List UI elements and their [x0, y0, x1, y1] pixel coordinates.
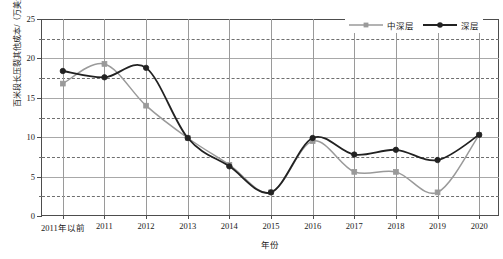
x-tick-label: 2016 — [304, 221, 321, 231]
x-tick-label: 2011年以前 — [41, 221, 85, 233]
data-point-marker-circle — [435, 157, 440, 162]
legend-circle-marker-icon — [423, 20, 457, 30]
data-point-marker-circle — [227, 164, 232, 169]
series-medium-deep — [60, 62, 481, 195]
data-point-marker-square — [102, 62, 107, 67]
series-line — [63, 65, 479, 193]
x-axis-title: 年份 — [41, 238, 499, 250]
x-tick-label: 2011 — [96, 221, 113, 231]
data-point-marker-square — [60, 81, 65, 86]
y-axis-title-wrapper: 百米段长压裂其他成本/（万美元/100m） — [0, 0, 16, 200]
x-tick-label: 2020 — [471, 221, 488, 231]
y-tick-label: 15 — [27, 93, 36, 103]
y-axis-title: 百米段长压裂其他成本/（万美元/100m） — [11, 0, 22, 136]
y-tick-label: 20 — [27, 53, 36, 63]
y-tick-label: 25 — [27, 14, 36, 24]
data-point-marker-circle — [352, 152, 357, 157]
data-point-marker-circle — [185, 135, 190, 140]
legend-label: 深层 — [461, 19, 479, 31]
data-point-marker-circle — [60, 68, 65, 73]
x-tick-label: 2018 — [387, 221, 404, 231]
data-point-marker-circle — [393, 147, 398, 152]
series-deep — [60, 65, 482, 195]
series-line — [63, 63, 479, 193]
x-tick-label: 2012 — [138, 221, 155, 231]
y-tick-label: 5 — [31, 172, 35, 182]
data-point-marker-circle — [310, 135, 315, 140]
data-point-marker-square — [394, 169, 399, 174]
data-point-marker-square — [352, 169, 357, 174]
data-point-marker-square — [144, 103, 149, 108]
legend-label: 中深层 — [387, 19, 414, 31]
legend-item[interactable]: 深层 — [423, 19, 479, 31]
x-tick-label: 2019 — [429, 221, 446, 231]
chart-legend: 中深层深层 — [345, 16, 483, 33]
x-tick-label: 2017 — [346, 221, 363, 231]
data-series-layer — [42, 19, 500, 216]
data-point-marker-circle — [102, 75, 107, 80]
x-tick-label: 2014 — [221, 221, 238, 231]
data-point-marker-circle — [143, 65, 148, 70]
data-point-marker-square — [435, 190, 440, 195]
y-tick-label: 0 — [31, 211, 35, 221]
legend-item[interactable]: 中深层 — [349, 19, 414, 31]
y-tick-mark — [37, 216, 42, 217]
data-point-marker-circle — [268, 190, 273, 195]
plot-area: 0510152025 2011年以前2011201220132014201520… — [41, 19, 499, 216]
legend-square-marker-icon — [349, 20, 383, 30]
x-tick-label: 2015 — [263, 221, 280, 231]
y-tick-label: 10 — [27, 132, 36, 142]
chart-container: 百米段长压裂其他成本/（万美元/100m） 0510152025 2011年以前… — [0, 0, 503, 259]
data-point-marker-circle — [476, 132, 481, 137]
x-tick-label: 2013 — [179, 221, 196, 231]
